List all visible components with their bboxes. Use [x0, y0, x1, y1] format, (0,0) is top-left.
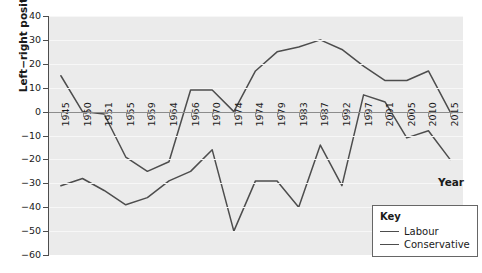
legend-item: Labour	[380, 225, 470, 238]
y-axis-tick-label: −60	[0, 249, 41, 260]
gridline	[49, 183, 463, 184]
x-axis-title: Year	[438, 176, 464, 188]
gridline	[49, 64, 463, 65]
y-axis-tick-label: −30	[0, 177, 41, 188]
x-axis-tick-label: 1970	[211, 102, 222, 126]
x-axis-tick-label: 1974	[232, 102, 243, 126]
x-axis-tick-label: 2015	[449, 102, 460, 126]
chart-root: Left−right position 403020100−10−20−30−4…	[0, 0, 482, 273]
x-axis-tick-label: 1951	[103, 102, 114, 126]
y-axis-tick-label: −10	[0, 130, 41, 141]
gridline	[49, 40, 463, 41]
y-axis-tick-label: −40	[0, 201, 41, 212]
x-axis-tick-label: 1964	[167, 102, 178, 126]
x-axis-tick-label: 1987	[319, 102, 330, 126]
legend-title: Key	[380, 210, 470, 223]
x-axis-tick-label: 2010	[427, 102, 438, 126]
gridline	[49, 159, 463, 160]
x-axis-tick-label: 1983	[297, 102, 308, 126]
x-axis-tick-label: 1979	[276, 102, 287, 126]
chart-legend: Key LabourConservative	[372, 205, 478, 257]
gridline	[49, 136, 463, 137]
x-axis-tick-label: 1950	[81, 102, 92, 126]
y-axis-tick-label: 10	[0, 82, 41, 93]
y-axis-tick-label: −20	[0, 153, 41, 164]
x-axis-tick-label: 2005	[405, 102, 416, 126]
legend-line-swatch	[380, 231, 399, 232]
y-axis-tick-label: 20	[0, 58, 41, 69]
legend-item-label: Conservative	[404, 238, 470, 251]
x-axis-tick-label: 1945	[59, 102, 70, 126]
x-axis-tick-label: 1997	[362, 102, 373, 126]
legend-rows: LabourConservative	[380, 225, 470, 251]
x-axis-tick-label: 2001	[384, 102, 395, 126]
x-axis-tick-label: 1992	[340, 102, 351, 126]
gridline	[49, 88, 463, 89]
x-axis-tick-label: 1955	[124, 102, 135, 126]
gridline	[49, 16, 463, 17]
legend-line-swatch	[380, 244, 399, 245]
x-axis-tick-label: 1959	[146, 102, 157, 126]
zero-axis-line	[49, 112, 463, 113]
x-axis-tick-label: 1966	[189, 102, 200, 126]
x-axis-tick-label: 1974	[254, 102, 265, 126]
legend-item: Conservative	[380, 238, 470, 251]
y-axis-tick-label: −50	[0, 225, 41, 236]
y-axis-tick-label: 40	[0, 10, 41, 21]
y-axis-tick-label: 30	[0, 34, 41, 45]
legend-item-label: Labour	[404, 225, 439, 238]
y-axis-tick-label: 0	[0, 106, 41, 117]
